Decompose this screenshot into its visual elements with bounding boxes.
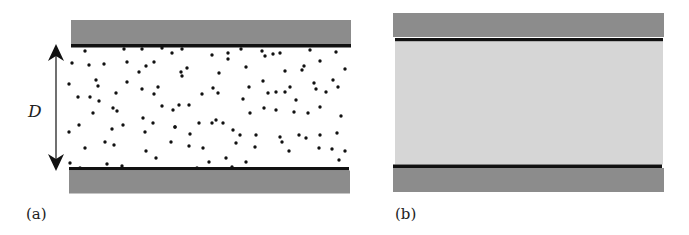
panel-label-a: (a) bbox=[26, 205, 47, 223]
bottom-plate-b bbox=[393, 168, 664, 192]
bottom-surface-line-b bbox=[393, 165, 662, 169]
dimension-arrow-icon bbox=[48, 44, 64, 171]
bottom-plate-a bbox=[69, 171, 350, 194]
figure bbox=[0, 0, 689, 235]
panel-label-b: (b) bbox=[395, 205, 416, 223]
bottom-surface-line-a bbox=[69, 167, 349, 171]
gap-medium-b bbox=[395, 42, 663, 165]
top-surface-line-b bbox=[395, 38, 663, 42]
panel-a bbox=[48, 20, 351, 194]
top-surface-line-a bbox=[71, 44, 351, 48]
top-plate-a bbox=[71, 20, 351, 44]
top-plate-b bbox=[393, 13, 664, 37]
dimension-label-d: D bbox=[28, 101, 42, 121]
particles bbox=[67, 46, 346, 169]
panel-b bbox=[393, 13, 664, 192]
